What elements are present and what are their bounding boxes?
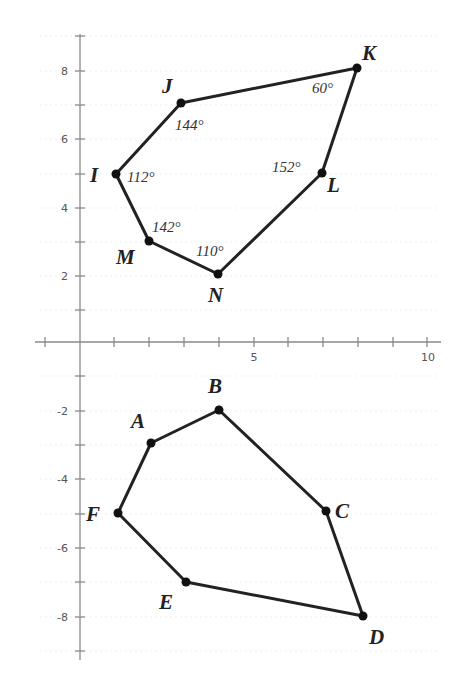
label-k: K [361,41,378,65]
y-tick-2: 2 [61,270,68,283]
vertex-d [359,612,368,621]
label-a: A [129,409,145,433]
vertex-labels: I J K L M N A B C D E F [85,41,384,649]
label-n: N [207,283,224,307]
y-tick-8: 8 [61,65,68,78]
angle-j: 144° [175,117,204,133]
axes [35,34,441,660]
vertex-b [215,406,224,415]
vertex-l [318,169,327,178]
y-tick-4: 4 [61,202,68,215]
label-m: M [115,245,136,269]
vertex-a [147,439,156,448]
figure: 5 10 8 6 4 2 -2 -4 -6 -8 I J K L M N [0,0,463,673]
x-tick-5: 5 [251,351,258,364]
vertex-i [112,170,121,179]
y-tick-neg8: -8 [57,611,68,624]
vertex-k [353,64,362,73]
label-j: J [161,74,174,98]
vertex-f [114,509,123,518]
label-d: D [368,625,384,649]
y-tick-neg4: -4 [57,473,68,486]
angle-k: 60° [312,80,333,96]
label-i: I [89,163,99,187]
coordinate-plane: 5 10 8 6 4 2 -2 -4 -6 -8 I J K L M N [0,0,463,673]
label-b: B [207,374,222,398]
angle-labels: 112° 144° 60° 152° 142° 110° [127,80,333,259]
y-tick-neg2: -2 [57,405,68,418]
vertex-m [145,237,154,246]
x-tick-10: 10 [421,351,435,364]
vertex-j [177,99,186,108]
vertex-e [182,578,191,587]
label-l: L [326,173,340,197]
angle-i: 112° [127,169,154,185]
angle-l: 152° [272,159,301,175]
label-c: C [335,499,350,523]
angle-m: 142° [152,219,181,235]
label-e: E [158,590,173,614]
label-f: F [85,502,100,526]
vertex-n [214,270,223,279]
y-tick-neg6: -6 [57,542,68,555]
y-tick-6: 6 [61,133,68,146]
grid [40,36,440,651]
polygon-abcdef [114,406,368,621]
vertex-c [322,507,331,516]
angle-n: 110° [196,243,223,259]
